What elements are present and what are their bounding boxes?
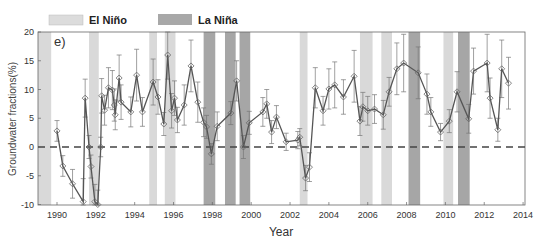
y-tick-label: 0 — [29, 142, 34, 152]
shaded-period — [149, 32, 157, 205]
x-tick-label: 2004 — [319, 210, 339, 220]
x-tick-label: 2000 — [241, 210, 261, 220]
legend-label-el-nino: El Niño — [89, 14, 127, 26]
shaded-period — [165, 32, 176, 205]
legend-label-la-nina: La Niña — [198, 14, 239, 26]
panel-label: e) — [54, 34, 66, 49]
y-tick-label: -10 — [21, 200, 34, 210]
x-tick-label: 2014 — [513, 210, 533, 220]
x-tick-label: 1990 — [47, 210, 67, 220]
y-axis-title: Groundwater fractions(%) — [7, 62, 18, 176]
shaded-period — [360, 32, 373, 205]
legend-swatch-la-nina — [158, 14, 192, 25]
x-tick-label: 2002 — [280, 210, 300, 220]
legend-swatch-el-nino — [49, 15, 83, 25]
y-tick-label: 10 — [24, 85, 34, 95]
shaded-period — [225, 32, 236, 205]
x-tick-label: 1994 — [125, 210, 145, 220]
x-tick-label: 1992 — [86, 210, 106, 220]
x-tick-label: 2012 — [474, 210, 494, 220]
shaded-period — [443, 32, 453, 205]
x-tick-label: 2008 — [397, 210, 417, 220]
shaded-period — [89, 32, 99, 205]
x-tick-label: 2006 — [358, 210, 378, 220]
shaded-period — [204, 32, 216, 205]
x-axis-title: Year — [269, 225, 293, 239]
y-tick-label: 5 — [29, 113, 34, 123]
y-tick-label: -5 — [26, 171, 34, 181]
x-tick-label: 1998 — [202, 210, 222, 220]
y-tick-label: 20 — [24, 27, 34, 37]
x-tick-label: 1996 — [164, 210, 184, 220]
error-bars — [55, 32, 512, 205]
y-tick-label: 15 — [24, 56, 34, 66]
groundwater-chart: 1990199219941996199820002002200420062008… — [0, 0, 544, 247]
x-tick-label: 2010 — [435, 210, 455, 220]
